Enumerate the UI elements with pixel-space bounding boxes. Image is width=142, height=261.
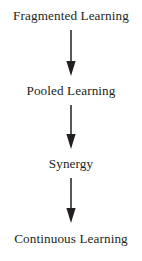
flow-node-continuous-learning: Continuous Learning [0,232,142,246]
flow-connector-2 [0,105,142,150]
flow-node-label: Pooled Learning [26,83,115,98]
flow-node-label: Fragmented Learning [13,8,129,23]
flow-node-label: Continuous Learning [14,231,128,246]
down-arrow-icon [64,30,78,77]
flow-connector-3 [0,178,142,224]
down-arrow-icon [64,178,78,224]
flow-connector-1 [0,30,142,77]
flow-node-label: Synergy [49,156,93,171]
flow-node-fragmented-learning: Fragmented Learning [0,9,142,23]
flow-diagram: Fragmented Learning Pooled Learning Syne… [0,0,142,261]
flow-node-synergy: Synergy [0,157,142,171]
flow-node-pooled-learning: Pooled Learning [0,84,142,98]
down-arrow-icon [64,105,78,150]
